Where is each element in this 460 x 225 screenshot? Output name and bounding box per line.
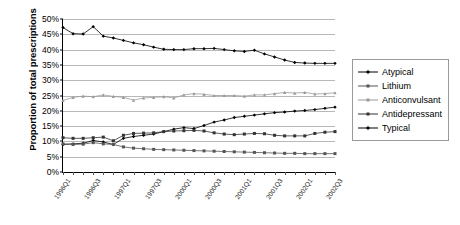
data-point: [172, 148, 175, 151]
legend-item-anticonvulsant[interactable]: Anticonvulsant: [358, 93, 442, 107]
y-tick-label: 45%: [42, 29, 59, 39]
chart-legend: AtypicalLithiumAnticonvulsantAntidepress…: [352, 59, 449, 141]
x-tick-label: 2001Q3: [264, 177, 283, 200]
x-tick-mark: [214, 172, 215, 175]
data-point: [293, 61, 296, 64]
x-tick-mark: [73, 172, 74, 175]
data-point: [253, 132, 256, 135]
x-tick-mark: [224, 172, 225, 175]
data-point: [283, 110, 286, 113]
data-point: [222, 48, 225, 51]
data-point: [333, 105, 336, 108]
series-layer: [63, 19, 335, 172]
data-point: [182, 129, 185, 132]
data-point: [202, 124, 205, 127]
series-line: [63, 27, 335, 64]
x-tick-mark: [144, 172, 145, 175]
legend-label: Atypical: [382, 67, 414, 77]
x-tick-mark: [113, 172, 114, 175]
data-point: [182, 126, 185, 129]
data-point: [293, 109, 296, 112]
data-point: [152, 45, 155, 48]
data-point: [233, 150, 236, 153]
data-point: [162, 148, 165, 151]
legend-label: Anticonvulsant: [382, 95, 441, 105]
data-point: [172, 129, 175, 132]
data-point: [122, 145, 125, 148]
data-point: [112, 139, 115, 142]
data-point: [233, 116, 236, 119]
data-point: [283, 152, 286, 155]
x-tick-label: 2000Q1: [173, 177, 192, 200]
legend-label: Typical: [382, 123, 410, 133]
data-point: [313, 152, 316, 155]
data-point: [323, 152, 326, 155]
x-tick-mark: [295, 172, 296, 175]
plot-inner: 0%5%10%15%20%25%30%35%40%45%50% 1996Q119…: [63, 19, 335, 172]
data-point: [243, 133, 246, 136]
x-tick-mark: [275, 172, 276, 175]
data-point: [122, 137, 125, 140]
x-tick-mark: [164, 172, 165, 175]
x-tick-mark: [305, 172, 306, 175]
legend-item-antidepressant[interactable]: Antidepressant: [358, 107, 442, 121]
y-tick-label: 5%: [47, 152, 59, 162]
data-point: [263, 151, 266, 154]
x-tick-label: 2002Q3: [325, 177, 344, 200]
legend-marker-icon: [358, 67, 378, 77]
data-point: [303, 152, 306, 155]
data-point: [203, 149, 206, 152]
data-point: [223, 133, 226, 136]
y-axis-title: Proportion of total prescriptions: [27, 0, 38, 160]
data-point: [334, 152, 337, 155]
data-point: [192, 129, 195, 132]
x-tick-mark: [174, 172, 175, 175]
data-point: [62, 136, 65, 139]
data-point: [313, 132, 316, 135]
data-point: [333, 62, 336, 65]
data-point: [283, 134, 286, 137]
data-point: [102, 142, 105, 145]
data-point: [233, 49, 236, 52]
data-point: [283, 58, 286, 61]
y-tick-label: 15%: [42, 121, 59, 131]
data-point: [152, 148, 155, 151]
x-tick-mark: [204, 172, 205, 175]
x-tick-label: 1996Q3: [83, 177, 102, 200]
data-point: [152, 131, 155, 134]
data-point: [323, 62, 326, 65]
data-point: [263, 112, 266, 115]
plot-area: 0%5%10%15%20%25%30%35%40%45%50% 1996Q119…: [62, 19, 335, 173]
data-point: [72, 137, 75, 140]
legend-item-typical[interactable]: Typical: [358, 121, 442, 135]
data-point: [334, 130, 337, 133]
data-point: [192, 149, 195, 152]
x-tick-mark: [194, 172, 195, 175]
data-point: [142, 132, 145, 135]
data-point: [102, 136, 105, 139]
legend-marker-icon: [358, 81, 378, 91]
x-tick-mark: [184, 172, 185, 175]
legend-item-lithium[interactable]: Lithium: [358, 79, 442, 93]
x-tick-mark: [264, 172, 265, 175]
x-tick-label: 2001Q1: [234, 177, 253, 200]
data-point: [293, 152, 296, 155]
data-point: [182, 48, 185, 51]
data-point: [263, 132, 266, 135]
x-tick-mark: [103, 172, 104, 175]
data-point: [142, 43, 145, 46]
data-point: [212, 47, 215, 50]
x-tick-mark: [93, 172, 94, 175]
data-point: [212, 120, 215, 123]
legend-item-atypical[interactable]: Atypical: [358, 65, 442, 79]
x-tick-mark: [254, 172, 255, 175]
y-tick-label: 10%: [42, 136, 59, 146]
data-point: [132, 135, 135, 138]
data-point: [323, 131, 326, 134]
x-tick-mark: [63, 172, 64, 175]
x-tick-mark: [134, 172, 135, 175]
y-tick-label: 0%: [47, 167, 59, 177]
x-tick-mark: [154, 172, 155, 175]
data-point: [122, 39, 125, 42]
series-typical: [61, 25, 336, 65]
